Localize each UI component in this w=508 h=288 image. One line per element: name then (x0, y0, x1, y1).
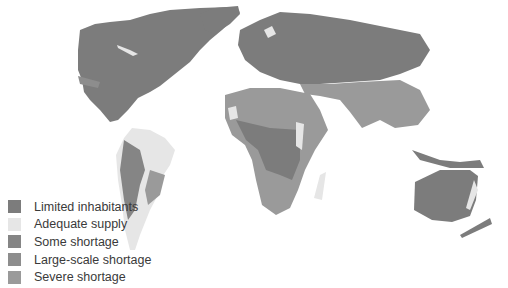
map-legend: Limited inhabitants Adequate supply Some… (8, 198, 151, 286)
legend-swatch (8, 200, 21, 213)
legend-item-adequate-supply: Adequate supply (8, 216, 151, 234)
legend-swatch (8, 235, 21, 248)
region-new-zealand (460, 218, 492, 238)
legend-item-limited-inhabitants: Limited inhabitants (8, 198, 151, 216)
legend-label: Limited inhabitants (34, 200, 138, 214)
legend-label: Adequate supply (34, 217, 127, 231)
region-eurasia (238, 12, 430, 84)
legend-label: Severe shortage (34, 270, 126, 284)
region-madagascar (314, 172, 326, 200)
legend-label: Some shortage (34, 235, 119, 249)
region-australia (414, 170, 478, 222)
legend-swatch (8, 271, 21, 284)
legend-item-severe-shortage: Severe shortage (8, 268, 151, 286)
legend-label: Large-scale shortage (34, 253, 151, 267)
legend-swatch (8, 218, 21, 231)
legend-swatch (8, 253, 21, 266)
legend-item-large-scale-shortage: Large-scale shortage (8, 251, 151, 269)
legend-item-some-shortage: Some shortage (8, 233, 151, 251)
region-indonesia (412, 150, 484, 168)
